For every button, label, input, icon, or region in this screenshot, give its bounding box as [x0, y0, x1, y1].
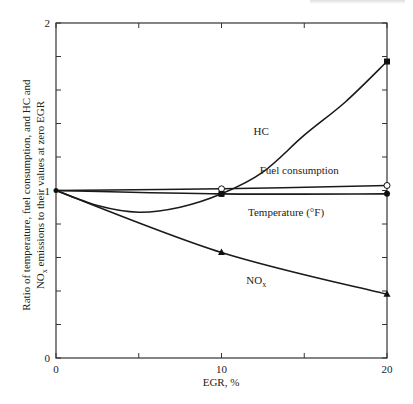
y-axis-title-line-1: Ratio of temperature, fuel consumption, … — [20, 79, 32, 311]
data-markers — [54, 59, 391, 297]
hc-marker — [384, 59, 390, 65]
nox-label: NOx — [246, 274, 266, 289]
emissions-ratio-chart: 01020012 HCFuel consumptionTemperature (… — [0, 0, 413, 404]
y-axis-title: Ratio of temperature, fuel consumption, … — [20, 79, 49, 311]
fuel-consumption-marker — [384, 182, 390, 188]
fuel-consumption-label: Fuel consumption — [260, 164, 340, 176]
temperature-f-label: Temperature (°F) — [248, 206, 324, 219]
temperature-f-marker — [384, 191, 390, 197]
svg-text:0: 0 — [45, 352, 51, 364]
svg-text:2: 2 — [45, 17, 51, 29]
origin-marker — [54, 188, 59, 193]
svg-text:20: 20 — [382, 363, 394, 375]
nox-curve — [56, 191, 387, 295]
svg-text:10: 10 — [216, 363, 228, 375]
data-series — [56, 62, 387, 295]
x-axis-title: EGR, % — [203, 376, 240, 388]
svg-text:0: 0 — [53, 363, 59, 375]
series-labels: HCFuel consumptionTemperature (°F)NOx — [246, 125, 339, 289]
hc-label: HC — [254, 125, 269, 137]
temperature-f-marker — [219, 191, 225, 197]
